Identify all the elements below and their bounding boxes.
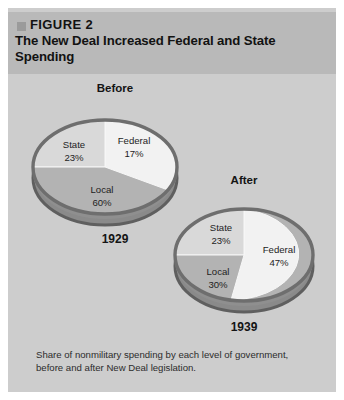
slice-label-state-after: State	[210, 222, 232, 233]
square-bullet-icon	[17, 22, 26, 31]
figure-header-band: FIGURE 2 The New Deal Increased Federal …	[8, 12, 336, 74]
figure-number: FIGURE 2	[30, 17, 93, 32]
slice-value-local-before: 60%	[92, 197, 112, 208]
figure-title: The New Deal Increased Federal and State…	[15, 33, 331, 64]
slice-value-federal-after: 47%	[269, 257, 289, 268]
pie-chart-after: After Federal 47% State 23% Local 30%	[161, 174, 327, 320]
pie-svg-after: Federal 47% State 23% Local 30%	[161, 174, 327, 320]
chart-area: Before Federal 17% State 23%	[8, 74, 336, 334]
slice-value-federal-before: 17%	[124, 148, 144, 159]
slice-label-federal-after: Federal	[263, 244, 296, 255]
pie-year-after: 1939	[161, 320, 327, 334]
slice-value-state-before: 23%	[64, 152, 84, 163]
figure-caption: Share of nonmilitary spending by each le…	[36, 348, 316, 374]
slice-label-local-before: Local	[91, 184, 114, 195]
slice-value-local-after: 30%	[208, 279, 228, 290]
slice-label-federal-before: Federal	[118, 135, 151, 146]
slice-label-local-after: Local	[207, 266, 230, 277]
slice-value-state-after: 23%	[211, 235, 231, 246]
figure-panel: FIGURE 2 The New Deal Increased Federal …	[8, 8, 336, 392]
slice-label-state-before: State	[63, 139, 85, 150]
